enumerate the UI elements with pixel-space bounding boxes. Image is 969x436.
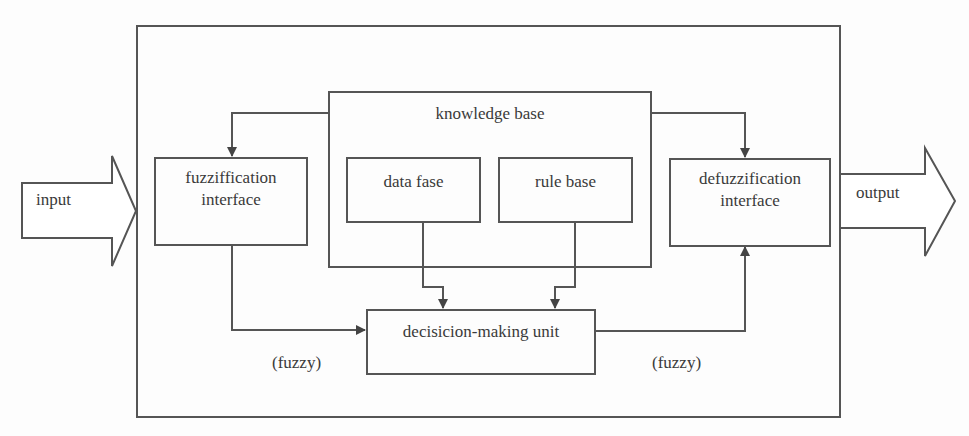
fuzzy-label-right: (fuzzy) <box>652 352 701 374</box>
decision-making-unit-label: decisicion-making unit <box>368 321 594 343</box>
fuzzification-interface-box: fuzziffication interface <box>154 157 308 246</box>
input-arrow-shape <box>22 156 136 266</box>
fuzzification-label-line1: fuzziffication <box>156 167 306 189</box>
knowledge-base-title: knowledge base <box>330 103 650 125</box>
figure-caption-clipped <box>0 429 969 436</box>
defuzzification-label-line2: interface <box>671 190 829 212</box>
defuzzification-label-line1: defuzzification <box>671 168 829 190</box>
fuzzy-label-left: (fuzzy) <box>272 352 321 374</box>
defuzzification-interface-box: defuzzification interface <box>669 158 831 247</box>
fuzzy-controller-diagram: input output fuzziffication interface kn… <box>0 0 969 436</box>
data-base-box: data fase <box>346 157 481 223</box>
fuzzification-label-line2: interface <box>156 189 306 211</box>
rule-base-box: rule base <box>498 157 633 223</box>
output-label: output <box>856 182 899 204</box>
data-base-label: data fase <box>348 171 479 193</box>
input-label: input <box>36 189 71 211</box>
rule-base-label: rule base <box>500 171 631 193</box>
decision-making-unit-box: decisicion-making unit <box>366 309 596 375</box>
